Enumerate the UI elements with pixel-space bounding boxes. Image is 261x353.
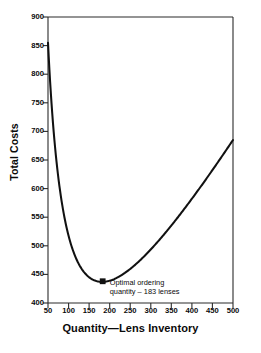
y-tick-label: 550 (2, 213, 44, 221)
y-tick-label: 450 (2, 271, 44, 279)
optimal-quantity-marker (100, 278, 106, 284)
optimal-quantity-annotation: Optimal ordering quantity – 183 lenses (110, 278, 180, 296)
annotation-line-1: Optimal ordering (110, 278, 180, 287)
y-axis-title: Total Costs (8, 112, 20, 192)
x-tick-label-group: 50 100 150 200 250 300 350 400 450 500 (0, 307, 261, 321)
y-tick-label: 800 (2, 70, 44, 78)
y-tick-label-group: 400 450 500 550 600 650 700 750 800 850 … (0, 0, 44, 353)
y-tick-label: 500 (2, 242, 44, 250)
y-tick-label: 400 (2, 299, 44, 307)
y-tick-label: 900 (2, 13, 44, 21)
total-cost-curve-line (48, 43, 233, 282)
y-tick-label: 850 (2, 42, 44, 50)
annotation-line-2: quantity – 183 lenses (110, 287, 180, 296)
y-tick-label: 750 (2, 99, 44, 107)
x-tick-label: 500 (213, 307, 253, 315)
chart-figure: 400 450 500 550 600 650 700 750 800 850 … (0, 0, 261, 353)
x-axis-title: Quantity—Lens Inventory (0, 322, 261, 334)
